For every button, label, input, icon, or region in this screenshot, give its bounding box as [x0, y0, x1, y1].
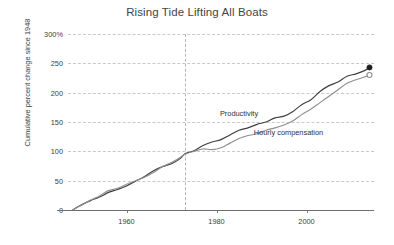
y-tick-label: 100 [51, 147, 63, 156]
x-tick-label: 1980 [208, 217, 224, 226]
series-endpoint-marker [367, 65, 372, 70]
y-tick-label: 300% [44, 30, 63, 39]
chart-figure: Rising Tide Lifting All Boats Cumulative… [0, 0, 394, 245]
x-axis-line [57, 210, 374, 211]
x-tick-label: 2000 [298, 217, 314, 226]
y-axis-title: Cumulative percent change since 1948 [23, 8, 32, 158]
x-tick-label: 1960 [118, 217, 134, 226]
series-endpoint-marker [367, 73, 372, 78]
y-tick-label: 200 [51, 88, 63, 97]
plot-area: 050100150200250300% 196019802000 Product… [68, 34, 374, 210]
series-label: Productivity [220, 109, 258, 118]
y-tick-label: 250 [51, 59, 63, 68]
y-tick-label: 150 [51, 118, 63, 127]
y-tick-label: 50 [55, 176, 63, 185]
chart-title: Rising Tide Lifting All Boats [0, 6, 394, 18]
series-label: Hourly compensation [254, 127, 323, 136]
series-lines [68, 34, 374, 210]
